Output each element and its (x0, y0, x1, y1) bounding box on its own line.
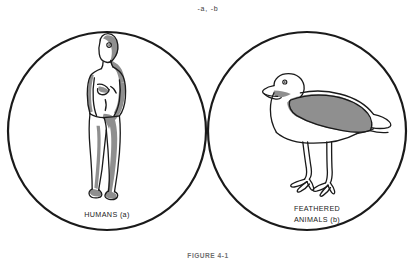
left-set-label: HUMANS (a) (27, 209, 187, 220)
venn-diagram-figure: -a, -b HUMANS (a) FEATHEREDANIMALS (b) F… (0, 0, 416, 261)
bird-figure-illustration (263, 74, 391, 197)
right-set-circle (208, 32, 406, 230)
complement-label: -a, -b (0, 3, 416, 14)
right-set-label-line1: FEATHERED (294, 204, 340, 213)
right-set-label: FEATHEREDANIMALS (b) (237, 203, 397, 225)
figure-caption: FIGURE 4-1 (0, 252, 416, 261)
right-set-label-line2: ANIMALS (b) (294, 215, 340, 224)
human-figure-illustration (87, 34, 125, 200)
